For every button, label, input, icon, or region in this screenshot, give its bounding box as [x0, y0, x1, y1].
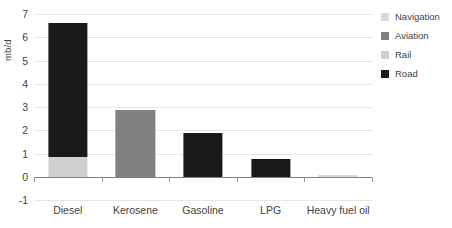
bar-stack[interactable] [251, 159, 290, 176]
bar-stack[interactable] [183, 133, 222, 177]
y-axis-tick-label: 3 [22, 101, 28, 113]
bar-group[interactable] [169, 14, 237, 200]
bar-segment[interactable] [183, 133, 222, 177]
legend-swatch-icon [381, 32, 389, 40]
bar-segment[interactable] [48, 157, 87, 176]
plot-area: 76543210-1 [34, 14, 372, 200]
y-axis-tick-label: 6 [22, 31, 28, 43]
bar-segment[interactable] [48, 23, 87, 157]
bar-segment[interactable] [251, 159, 290, 176]
bar-group[interactable] [34, 14, 102, 200]
x-axis-category-label: LPG [237, 204, 305, 216]
bar-chart: mb/d 76543210-1 DieselKeroseneGasolineLP… [0, 0, 452, 228]
legend-label: Rail [395, 50, 411, 60]
bar-group[interactable] [237, 14, 305, 200]
y-axis-tick-label: 7 [22, 8, 28, 20]
legend-swatch-icon [381, 70, 389, 78]
legend-item[interactable]: Navigation [381, 8, 451, 26]
bar-segment[interactable] [319, 175, 358, 176]
y-axis-tick-label: -1 [19, 194, 28, 206]
legend-swatch-icon [381, 13, 389, 21]
bar-stack[interactable] [48, 23, 87, 177]
y-axis-tick-label: 4 [22, 78, 28, 90]
bars [34, 14, 372, 200]
bar-group[interactable] [102, 14, 170, 200]
legend-item[interactable]: Aviation [381, 27, 451, 45]
legend-item[interactable]: Road [381, 65, 451, 83]
bar-stack[interactable] [319, 175, 358, 176]
y-axis-tick-label: 1 [22, 148, 28, 160]
chart-legend: NavigationAviationRailRoad [381, 8, 451, 84]
y-axis-tick-label: 2 [22, 124, 28, 136]
x-axis-tick-mark [372, 177, 373, 182]
x-axis-category-label: Gasoline [169, 204, 237, 216]
legend-label: Navigation [395, 12, 440, 22]
x-axis-category-label: Kerosene [102, 204, 170, 216]
legend-label: Road [395, 69, 418, 79]
x-axis-category-label: Heavy fuel oil [304, 204, 372, 216]
legend-item[interactable]: Rail [381, 46, 451, 64]
bar-stack[interactable] [116, 110, 155, 177]
bar-group[interactable] [304, 14, 372, 200]
bar-segment[interactable] [116, 110, 155, 177]
x-axis-category-label: Diesel [34, 204, 102, 216]
y-axis-title: mb/d [2, 20, 18, 80]
y-axis-tick-label: 0 [22, 171, 28, 183]
y-axis-tick-label: 5 [22, 55, 28, 67]
gridline: -1 [34, 200, 372, 201]
legend-label: Aviation [395, 31, 429, 41]
legend-swatch-icon [381, 51, 389, 59]
